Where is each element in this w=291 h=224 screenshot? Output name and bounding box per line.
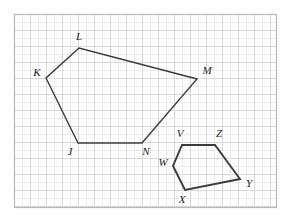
vertex-label-k: K xyxy=(32,66,41,78)
vertex-label-z: Z xyxy=(216,127,223,139)
vertex-label-n: N xyxy=(141,145,150,157)
vertex-label-w: W xyxy=(158,156,168,168)
vertex-label-x: X xyxy=(178,193,187,205)
geometry-figure: JKLMNVZYXW xyxy=(0,0,291,224)
vertex-label-m: M xyxy=(201,64,212,76)
vertex-label-l: L xyxy=(75,30,82,42)
geometry-canvas: JKLMNVZYXW xyxy=(0,0,291,224)
